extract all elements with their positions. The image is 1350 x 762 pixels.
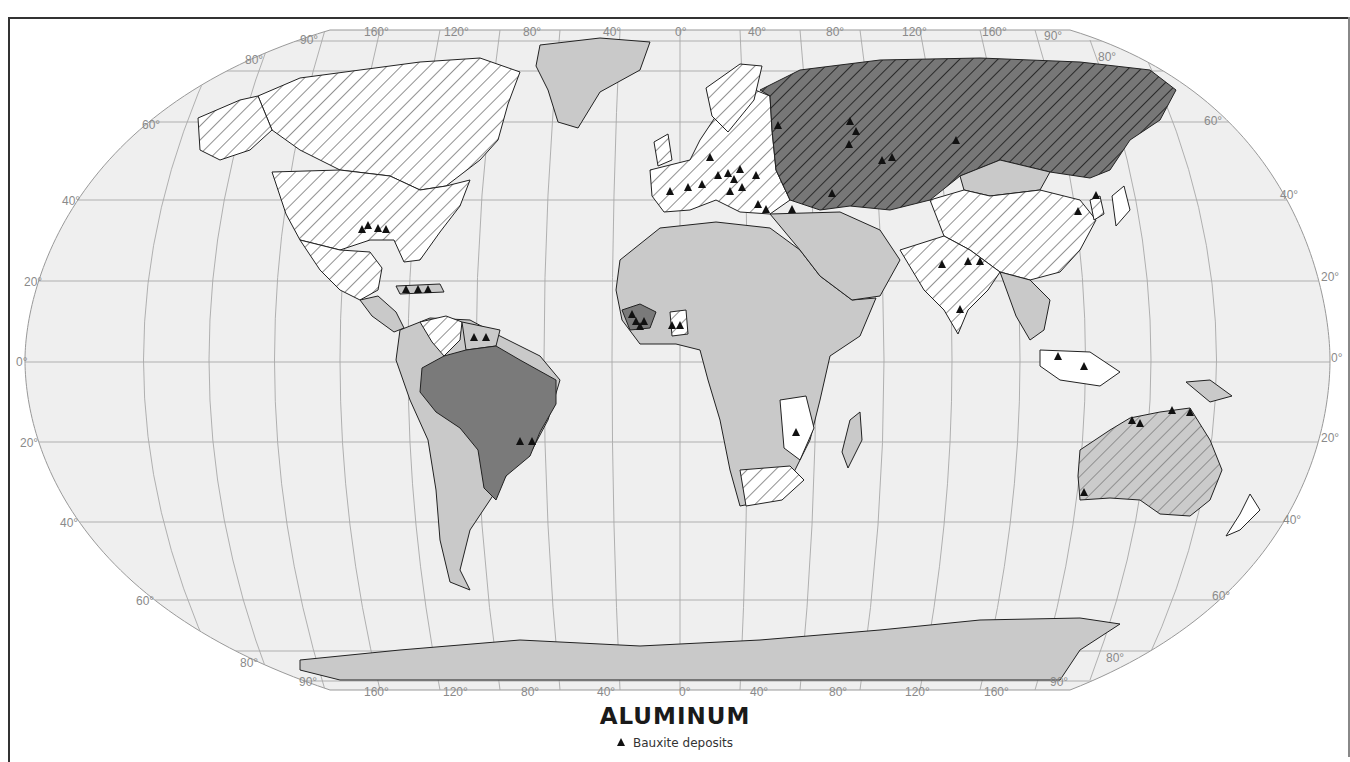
svg-text:40°: 40°	[1280, 188, 1298, 202]
svg-text:120°: 120°	[443, 685, 468, 699]
svg-text:60°: 60°	[1212, 589, 1230, 603]
svg-text:20°: 20°	[20, 436, 38, 450]
svg-text:160°: 160°	[982, 25, 1007, 39]
svg-text:160°: 160°	[364, 25, 389, 39]
svg-text:120°: 120°	[902, 25, 927, 39]
legend-label-bauxite: Bauxite deposits	[633, 736, 733, 750]
svg-text:20°: 20°	[24, 275, 42, 289]
svg-text:60°: 60°	[1204, 114, 1222, 128]
svg-text:90°: 90°	[300, 33, 318, 47]
svg-text:80°: 80°	[521, 685, 539, 699]
svg-text:0°: 0°	[16, 355, 28, 369]
svg-text:40°: 40°	[603, 25, 621, 39]
svg-text:80°: 80°	[829, 685, 847, 699]
svg-text:80°: 80°	[1106, 651, 1124, 665]
svg-text:0°: 0°	[1331, 351, 1343, 365]
svg-text:60°: 60°	[142, 118, 160, 132]
svg-text:160°: 160°	[364, 685, 389, 699]
legend: Bauxite deposits	[0, 736, 1350, 750]
svg-text:40°: 40°	[1283, 513, 1301, 527]
svg-text:40°: 40°	[748, 25, 766, 39]
svg-text:20°: 20°	[1321, 431, 1339, 445]
svg-text:60°: 60°	[136, 594, 154, 608]
svg-text:120°: 120°	[444, 25, 469, 39]
map-title: ALUMINUM	[0, 703, 1350, 729]
svg-text:90°: 90°	[299, 675, 317, 689]
svg-text:0°: 0°	[679, 685, 691, 699]
svg-text:80°: 80°	[245, 53, 263, 67]
svg-text:0°: 0°	[675, 25, 687, 39]
svg-text:20°: 20°	[1321, 270, 1339, 284]
svg-text:90°: 90°	[1050, 675, 1068, 689]
svg-text:80°: 80°	[240, 656, 258, 670]
svg-text:80°: 80°	[1098, 50, 1116, 64]
svg-text:120°: 120°	[905, 685, 930, 699]
bauxite-triangle-icon	[617, 738, 625, 746]
svg-text:80°: 80°	[523, 25, 541, 39]
svg-text:40°: 40°	[60, 516, 78, 530]
svg-text:40°: 40°	[62, 194, 80, 208]
svg-text:160°: 160°	[984, 685, 1009, 699]
svg-text:90°: 90°	[1044, 29, 1062, 43]
svg-text:40°: 40°	[750, 685, 768, 699]
svg-text:40°: 40°	[597, 685, 615, 699]
svg-text:80°: 80°	[826, 25, 844, 39]
